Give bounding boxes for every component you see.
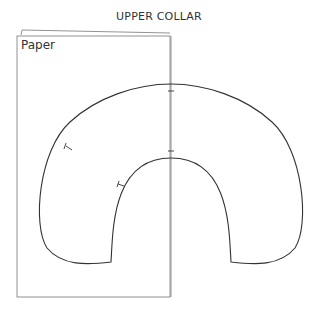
notch-marks: [64, 91, 174, 187]
paper-sheet: [17, 36, 170, 297]
paper-back-sheet: [21, 30, 170, 35]
paper-label: Paper: [21, 38, 55, 52]
